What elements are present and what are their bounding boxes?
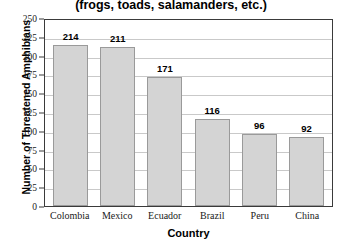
y-axis-tick-label: 125 [23,108,37,118]
y-axis-tick-label: 100 [23,127,37,137]
chart-title: Threatened Amphibian Species (frogs, toa… [0,0,342,12]
bar[interactable]: 214 [53,45,88,206]
bar-slot: 214 [47,20,94,206]
y-axis-tick-labels: 2502252001751501251007550250 [0,19,44,207]
bar-value-label: 116 [204,106,219,116]
bar-value-label: 171 [157,64,173,74]
bar[interactable]: 92 [289,137,324,206]
x-axis-tick-label: Brazil [189,210,237,226]
bar-value-label: 214 [63,32,79,42]
bar[interactable]: 171 [147,77,182,206]
chart-title-line-2: (frogs, toads, salamanders, etc.) [0,0,342,12]
bar-value-label: 96 [254,121,265,131]
x-axis-tick-label: Peru [236,210,284,226]
bar-series: 2142111711169692 [45,20,332,206]
bar[interactable]: 96 [242,134,277,206]
y-axis-tick-label: 175 [23,70,37,80]
bar-value-label: 211 [110,34,125,44]
plot-area: 2142111711169692 [44,19,333,207]
bar[interactable]: 211 [100,47,135,206]
y-axis-tick-label: 25 [28,183,38,193]
y-axis-tick-label: 0 [32,202,37,212]
x-axis-title: Country [44,227,333,240]
bar-slot: 211 [94,20,141,206]
bar-slot: 116 [189,20,236,206]
x-axis-tick-label: Colombia [46,210,94,226]
bar-slot: 96 [236,20,283,206]
bar[interactable]: 116 [195,119,230,206]
y-axis-tick-label: 150 [23,89,37,99]
y-axis-tick-label: 250 [23,14,37,24]
x-axis-tick-label: China [284,210,332,226]
bar-slot: 92 [283,20,330,206]
x-axis-tick-label: Mexico [94,210,142,226]
bar-value-label: 92 [301,124,312,134]
y-axis-tick-label: 50 [28,164,38,174]
x-axis-tick-label: Ecuador [141,210,189,226]
y-axis-tick-label: 200 [23,52,37,62]
y-axis-tick-label: 75 [28,146,38,156]
bar-chart: Threatened Amphibian Species (frogs, toa… [0,0,342,250]
bar-slot: 171 [141,20,188,206]
y-axis-tick-label: 225 [23,33,37,43]
x-axis-tick-labels: ColombiaMexicoEcuadorBrazilPeruChina [44,210,333,226]
